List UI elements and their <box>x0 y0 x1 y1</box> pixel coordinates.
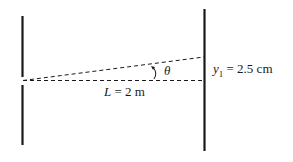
angled-ray <box>23 57 204 81</box>
y1-label: y1 = 2.5 cm <box>213 61 273 79</box>
angle-label: θ <box>164 63 170 79</box>
diagram: θ y1 = 2.5 cm L = 2 m <box>0 0 293 162</box>
distance-value: = 2 m <box>111 84 145 99</box>
diagram-graphics <box>0 0 293 162</box>
y1-value: = 2.5 cm <box>223 61 272 76</box>
distance-label: L = 2 m <box>104 84 145 100</box>
